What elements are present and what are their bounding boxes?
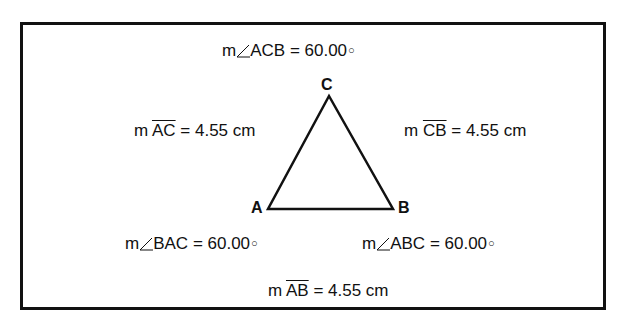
angle-value: = 60.00 [193, 234, 250, 253]
measure-prefix: m [268, 281, 282, 300]
angle-name: ACB [250, 41, 285, 60]
angle-icon [236, 44, 250, 58]
angle-name: BAC [153, 234, 188, 253]
measure-prefix: m [222, 41, 236, 60]
degree-icon: ○ [488, 237, 495, 249]
vertex-a-label: A [251, 199, 263, 217]
vertex-c-label: C [321, 76, 333, 94]
segment-value: = 4.55 cm [313, 281, 388, 300]
segment-name: AB [286, 281, 309, 300]
angle-value: = 60.00 [290, 41, 347, 60]
segment-name: AC [152, 121, 176, 140]
angle-bac-measure: mBAC = 60.00○ [125, 235, 258, 252]
angle-icon [376, 237, 390, 251]
measure-prefix: m [125, 234, 139, 253]
angle-icon [139, 237, 153, 251]
segment-cb-measure: m CB = 4.55 cm [404, 122, 526, 139]
angle-acb-measure: mACB = 60.00○ [222, 42, 355, 59]
degree-icon: ○ [251, 237, 258, 249]
degree-icon: ○ [348, 44, 355, 56]
angle-value: = 60.00 [430, 234, 487, 253]
measure-prefix: m [134, 121, 148, 140]
segment-name: CB [423, 121, 447, 140]
angle-name: ABC [390, 234, 425, 253]
angle-abc-measure: mABC = 60.00○ [362, 235, 495, 252]
segment-value: = 4.55 cm [180, 121, 255, 140]
vertex-b-label: B [398, 199, 410, 217]
segment-ac-measure: m AC = 4.55 cm [134, 122, 255, 139]
measure-prefix: m [404, 121, 418, 140]
measure-prefix: m [362, 234, 376, 253]
segment-value: = 4.55 cm [451, 121, 526, 140]
segment-ab-measure: m AB = 4.55 cm [268, 282, 389, 299]
